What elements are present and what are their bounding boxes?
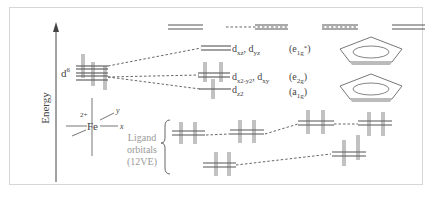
mo-level-e1g-star: dxz, dyz (e1g*) <box>201 43 311 57</box>
energy-axis-label: Energy <box>39 92 51 124</box>
fe-center: Fe 2+ y x <box>66 98 124 156</box>
svg-text:dz2: dz2 <box>232 84 244 98</box>
ligand-levels <box>172 110 392 176</box>
svg-text:(12VE): (12VE) <box>127 156 157 168</box>
mo-level-a1g: dz2 (a1g) <box>199 79 307 100</box>
fe-symbol: Fe <box>87 120 98 132</box>
brace-icon <box>161 120 170 174</box>
arrow-up-icon <box>53 22 59 32</box>
x-axis-label: x <box>119 122 124 131</box>
svg-text:(e1g*): (e1g*) <box>289 43 311 57</box>
cp-ring-bottom-icon <box>340 74 402 102</box>
svg-text:(e2g): (e2g) <box>289 71 307 85</box>
antibonding-levels <box>168 25 425 29</box>
ligand-orbitals-label: Ligand orbitals (12VE) <box>127 120 170 174</box>
d-count-label: d6 <box>61 66 71 79</box>
svg-text:d6: d6 <box>61 66 71 79</box>
svg-text:(a1g): (a1g) <box>289 86 307 100</box>
metal-d-orbitals <box>76 54 108 90</box>
energy-axis: Energy <box>39 22 59 182</box>
svg-text:Ligand: Ligand <box>128 132 156 143</box>
y-axis-label: y <box>115 106 120 115</box>
svg-text:dx2-y2, dxy: dx2-y2, dxy <box>232 71 270 85</box>
mo-diagram: Energy d6 Fe 2+ y x Ligand orbitals (12V… <box>0 0 436 205</box>
fe-charge: 2+ <box>80 111 88 119</box>
cp-ring-top-icon <box>340 37 402 65</box>
svg-text:dxz, dyz: dxz, dyz <box>232 43 260 57</box>
svg-text:orbitals: orbitals <box>127 144 157 155</box>
